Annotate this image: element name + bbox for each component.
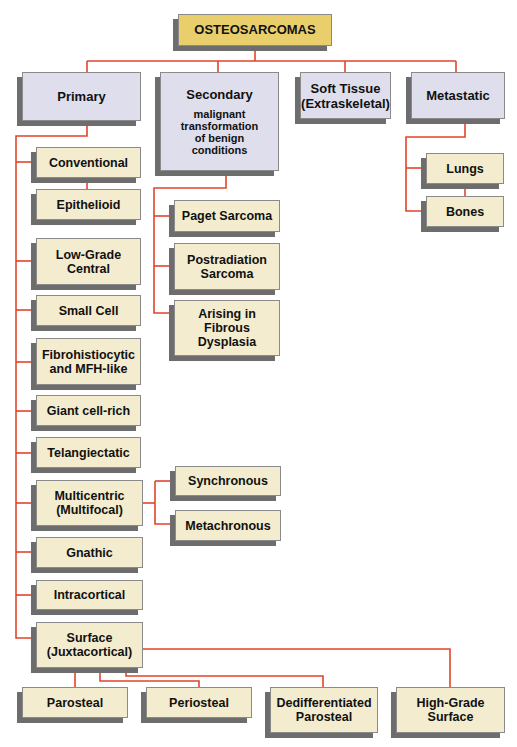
root-label: OSTEOSARCOMAS xyxy=(194,23,315,37)
subtype-telangiectatic: Telangiectatic xyxy=(36,437,141,468)
subtype-synchronous: Synchronous xyxy=(175,466,281,496)
subtype-arising-in-fibrous-dysplasia: Arising in Fibrous Dysplasia xyxy=(174,300,280,356)
connector-surface-dedifferentiated xyxy=(126,668,323,687)
category-label: Primary xyxy=(57,89,105,104)
subtype-label: High-Grade Surface xyxy=(411,696,491,724)
connector-multicentric-synchronous xyxy=(155,481,173,524)
subtype-label: Gnathic xyxy=(66,546,113,560)
subtype-low-grade-central: Low-Grade Central xyxy=(36,238,141,285)
subtype-label: Bones xyxy=(446,205,484,219)
subtype-small-cell: Small Cell xyxy=(36,295,141,326)
subtype-label: Metachronous xyxy=(185,519,270,533)
subtype-bones: Bones xyxy=(426,196,504,227)
category-label: Metastatic xyxy=(426,88,490,103)
subtype-multicentric: Multicentric (Multifocal) xyxy=(36,480,143,526)
subtype-label: Multicentric (Multifocal) xyxy=(45,489,135,517)
subtype-label: Parosteal xyxy=(47,696,103,710)
subtype-giant-cell-rich: Giant cell-rich xyxy=(36,395,141,426)
subtype-periosteal: Periosteal xyxy=(146,687,252,718)
subtype-gnathic: Gnathic xyxy=(36,537,143,568)
subtype-label: Intracortical xyxy=(54,588,126,602)
subtype-high-grade-surface: High-Grade Surface xyxy=(396,687,505,733)
subtype-label: Low-Grade Central xyxy=(49,248,129,276)
subtype-label: Postradiation Sarcoma xyxy=(182,253,272,281)
connector-surface-periosteal xyxy=(100,668,199,687)
category-secondary: Secondary malignant transformation of be… xyxy=(160,72,279,171)
subtype-postradiation-sarcoma: Postradiation Sarcoma xyxy=(174,243,280,290)
category-label: Secondary xyxy=(186,87,252,102)
subtype-fibrohistiocytic: Fibrohistiocytic and MFH-like xyxy=(36,338,141,385)
subtype-intracortical: Intracortical xyxy=(36,580,143,610)
subtype-label: Epithelioid xyxy=(57,198,121,212)
subtype-label: Telangiectatic xyxy=(47,446,129,460)
subtype-paget-sarcoma: Paget Sarcoma xyxy=(174,200,280,232)
category-label: Soft Tissue (Extraskeletal) xyxy=(301,81,391,111)
subtype-label: Dedifferentiated Parosteal xyxy=(272,696,376,724)
subtype-surface: Surface (Juxtacortical) xyxy=(36,622,143,668)
subtype-label: Small Cell xyxy=(59,304,119,318)
category-soft-tissue: Soft Tissue (Extraskeletal) xyxy=(300,72,391,119)
subtype-conventional: Conventional xyxy=(36,147,141,178)
category-primary: Primary xyxy=(22,72,141,121)
subtype-parosteal: Parosteal xyxy=(22,687,128,718)
subtype-label: Conventional xyxy=(49,156,128,170)
subtype-label: Periosteal xyxy=(169,696,229,710)
subtype-label: Synchronous xyxy=(188,474,268,488)
subtype-dedifferentiated-parosteal: Dedifferentiated Parosteal xyxy=(270,687,378,733)
subtype-label: Surface (Juxtacortical) xyxy=(42,631,138,659)
root-node-osteosarcomas: OSTEOSARCOMAS xyxy=(178,14,332,46)
subtype-label: Paget Sarcoma xyxy=(182,209,272,223)
subtype-label: Giant cell-rich xyxy=(47,404,130,418)
subtype-label: Fibrohistiocytic and MFH-like xyxy=(39,348,139,376)
subtype-lungs: Lungs xyxy=(426,153,504,184)
subtype-label: Arising in Fibrous Dysplasia xyxy=(191,307,263,349)
category-metastatic: Metastatic xyxy=(411,72,505,119)
subtype-epithelioid: Epithelioid xyxy=(36,189,141,220)
subtype-metachronous: Metachronous xyxy=(175,510,281,541)
category-note: malignant transformation of benign condi… xyxy=(175,108,265,156)
subtype-label: Lungs xyxy=(446,162,484,176)
